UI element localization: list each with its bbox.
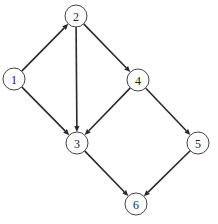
- edge-3-to-6: [85, 151, 129, 196]
- node-4: 4: [127, 69, 149, 91]
- edge-line: [89, 88, 131, 131]
- edge-1-to-3: [22, 87, 70, 135]
- arrowhead-icon: [74, 126, 79, 132]
- edges-layer: [22, 24, 191, 196]
- edge-line: [148, 151, 190, 192]
- node-label: 6: [133, 198, 139, 212]
- nodes-layer: 123456: [3, 5, 209, 215]
- node-label: 5: [195, 137, 201, 151]
- edge-2-to-4: [84, 24, 131, 72]
- node-1: 1: [3, 68, 25, 90]
- edge-line: [146, 88, 187, 131]
- node-label: 1: [11, 73, 17, 87]
- node-label: 2: [73, 10, 79, 24]
- directed-graph: 123456: [0, 0, 218, 224]
- edge-1-to-2: [22, 24, 69, 71]
- edge-4-to-3: [85, 88, 131, 135]
- edge-5-to-6: [144, 151, 190, 197]
- edge-line: [85, 151, 125, 192]
- edge-4-to-5: [146, 88, 191, 135]
- node-3: 3: [66, 132, 88, 154]
- edge-line: [76, 27, 77, 126]
- node-label: 4: [135, 74, 141, 88]
- node-6: 6: [125, 193, 147, 215]
- node-label: 3: [74, 137, 80, 151]
- edge-2-to-3: [74, 27, 79, 132]
- edge-line: [22, 87, 65, 131]
- edge-line: [84, 24, 127, 68]
- node-5: 5: [187, 132, 209, 154]
- edge-line: [22, 28, 64, 71]
- node-2: 2: [65, 5, 87, 27]
